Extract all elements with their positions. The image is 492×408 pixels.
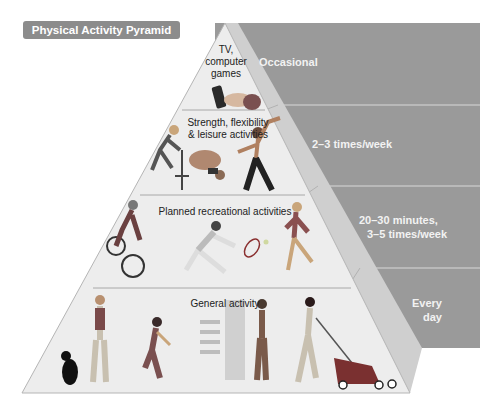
freq-line: day — [412, 310, 442, 324]
label-line: Planned recreational activities — [150, 206, 300, 218]
freq-line: 20–30 minutes, — [359, 213, 447, 227]
frequency-2-3-times-week: 2–3 times/week — [312, 137, 392, 151]
freq-line: 3–5 times/week — [359, 227, 447, 241]
label-line: computer — [196, 56, 256, 68]
freq-line: Every — [412, 296, 442, 310]
frequency-every-day: Every day — [412, 296, 442, 324]
label-line: games — [196, 68, 256, 80]
frequency-20-30-minutes: 20–30 minutes, 3–5 times/week — [359, 213, 447, 241]
tier-label-tv-computer-games: TV, computer games — [196, 44, 256, 80]
label-line: TV, — [196, 44, 256, 56]
tier-label-planned-recreational: Planned recreational activities — [150, 206, 300, 218]
tier-label-strength-flexibility: Strength, flexibility & leisure activiti… — [168, 117, 288, 141]
tier-label-general-activity: General activity — [180, 298, 270, 310]
label-line: General activity — [180, 298, 270, 310]
label-line: & leisure activities — [168, 129, 288, 141]
diagram-title: Physical Activity Pyramid — [23, 21, 180, 39]
label-line: Strength, flexibility — [168, 117, 288, 129]
frequency-occasional: Occasional — [259, 55, 318, 69]
